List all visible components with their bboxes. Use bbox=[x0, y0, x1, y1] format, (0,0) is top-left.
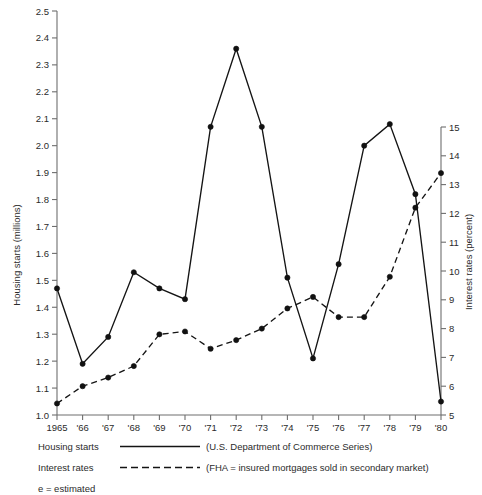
series-layer bbox=[54, 46, 443, 406]
left-axis-tick-label: 1.1 bbox=[36, 383, 49, 394]
data-point-marker bbox=[54, 401, 59, 406]
data-point-marker bbox=[131, 363, 136, 368]
data-point-marker bbox=[310, 356, 315, 361]
x-axis-tick-label: '75 bbox=[307, 422, 319, 433]
left-axis-tick-label: 1.4 bbox=[36, 302, 49, 313]
data-point-marker bbox=[336, 262, 341, 267]
x-axis-tick-label: '67 bbox=[102, 422, 114, 433]
data-point-marker bbox=[387, 274, 392, 279]
right-axis: 56789101112131415 bbox=[441, 122, 460, 421]
chart-container: 1.01.11.21.31.41.51.61.71.81.92.02.12.22… bbox=[0, 0, 482, 495]
line-chart: 1.01.11.21.31.41.51.61.71.81.92.02.12.22… bbox=[0, 0, 482, 495]
right-axis-tick-label: 9 bbox=[449, 294, 454, 305]
data-point-marker bbox=[208, 124, 213, 129]
x-axis-tick-label: 1965 bbox=[46, 422, 67, 433]
legend-label: Interest rates bbox=[38, 462, 94, 473]
data-point-marker bbox=[387, 122, 392, 127]
x-axis-tick-label: '79 bbox=[409, 422, 421, 433]
data-point-marker bbox=[157, 286, 162, 291]
right-axis-tick-label: 11 bbox=[449, 237, 459, 248]
left-axis-tick-label: 2.2 bbox=[36, 86, 49, 97]
legend-footnote: e = estimated bbox=[38, 483, 95, 494]
left-axis: 1.01.11.21.31.41.51.61.71.81.92.02.12.22… bbox=[36, 6, 57, 421]
right-axis-tick-label: 15 bbox=[449, 122, 460, 133]
data-point-marker bbox=[362, 314, 367, 319]
data-point-marker bbox=[285, 306, 290, 311]
right-axis-tick-label: 14 bbox=[449, 150, 460, 161]
x-axis-tick-label: '74 bbox=[281, 422, 293, 433]
x-axis-tick-label: '77 bbox=[358, 422, 370, 433]
right-axis-tick-label: 8 bbox=[449, 323, 454, 334]
left-axis-tick-label: 2.1 bbox=[36, 113, 49, 124]
x-axis-tick-label: '76 bbox=[332, 422, 344, 433]
data-point-marker bbox=[438, 399, 443, 404]
data-point-marker bbox=[413, 192, 418, 197]
data-point-marker bbox=[438, 170, 443, 175]
data-point-marker bbox=[234, 338, 239, 343]
right-axis-tick-label: 10 bbox=[449, 266, 460, 277]
data-point-marker bbox=[182, 297, 187, 302]
left-axis-tick-label: 2.3 bbox=[36, 59, 49, 70]
data-point-marker bbox=[285, 275, 290, 280]
data-point-marker bbox=[54, 286, 59, 291]
right-axis-tick-label: 13 bbox=[449, 179, 460, 190]
data-point-marker bbox=[106, 334, 111, 339]
data-point-marker bbox=[234, 46, 239, 51]
data-point-marker bbox=[80, 384, 85, 389]
chart-legend: Housing starts(U.S. Department of Commer… bbox=[38, 441, 429, 494]
x-axis-tick-label: '66 bbox=[76, 422, 88, 433]
left-axis-tick-label: 1.3 bbox=[36, 329, 49, 340]
x-axis-tick-label: '72 bbox=[230, 422, 242, 433]
left-axis-tick-label: 1.7 bbox=[36, 221, 49, 232]
legend-note: (FHA = insured mortgages sold in seconda… bbox=[206, 462, 429, 473]
left-axis-tick-label: 2.4 bbox=[36, 32, 49, 43]
data-point-marker bbox=[80, 361, 85, 366]
right-axis-tick-label: 5 bbox=[449, 410, 454, 421]
series-line-housing-starts bbox=[57, 49, 441, 402]
left-axis-tick-label: 1.6 bbox=[36, 248, 49, 259]
x-axis-tick-label: '78 bbox=[384, 422, 396, 433]
right-axis-tick-label: 7 bbox=[449, 352, 454, 363]
left-axis-tick-label: 2.5 bbox=[36, 6, 49, 17]
axis-titles: Housing starts (millions)Interest rates … bbox=[11, 204, 474, 310]
data-point-marker bbox=[310, 294, 315, 299]
left-axis-tick-label: 1.9 bbox=[36, 167, 49, 178]
x-axis-tick-label: '68 bbox=[128, 422, 140, 433]
left-axis-tick-label: 2.0 bbox=[36, 140, 49, 151]
data-point-marker bbox=[336, 314, 341, 319]
x-axis-tick-label: '69 bbox=[153, 422, 165, 433]
right-axis-tick-label: 12 bbox=[449, 208, 460, 219]
right-axis-title: Interest rates (percent) bbox=[463, 214, 474, 310]
left-axis-tick-label: 1.2 bbox=[36, 356, 49, 367]
data-point-marker bbox=[208, 346, 213, 351]
data-point-marker bbox=[259, 326, 264, 331]
left-axis-tick-label: 1.5 bbox=[36, 275, 49, 286]
x-axis-tick-label: '70 bbox=[179, 422, 191, 433]
right-axis-tick-label: 6 bbox=[449, 381, 454, 392]
data-point-marker bbox=[259, 124, 264, 129]
legend-label: Housing starts bbox=[38, 441, 99, 452]
left-axis-tick-label: 1.0 bbox=[36, 410, 49, 421]
data-point-marker bbox=[131, 270, 136, 275]
series-line-interest-rates bbox=[57, 173, 441, 403]
data-point-marker bbox=[362, 143, 367, 148]
data-point-marker bbox=[182, 329, 187, 334]
x-axis-tick-label: '73 bbox=[256, 422, 268, 433]
x-axis: 1965'66'67'68'69'70'71'72'73'74'75'76'77… bbox=[46, 415, 447, 433]
left-axis-tick-label: 1.8 bbox=[36, 194, 49, 205]
x-axis-tick-label: '71 bbox=[204, 422, 216, 433]
data-point-marker bbox=[106, 375, 111, 380]
x-axis-tick-label: '80 bbox=[435, 422, 447, 433]
legend-note: (U.S. Department of Commerce Series) bbox=[206, 441, 372, 452]
data-point-marker bbox=[157, 332, 162, 337]
data-point-marker bbox=[413, 205, 418, 210]
left-axis-title: Housing starts (millions) bbox=[11, 204, 22, 305]
